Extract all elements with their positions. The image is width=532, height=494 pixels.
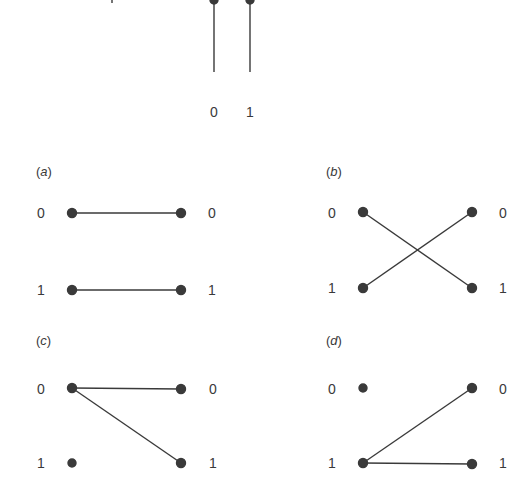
panel-a-letter: a (40, 164, 47, 179)
right-node-0 (177, 209, 186, 218)
right-node-0 (468, 384, 477, 393)
panel-a-right-label-1: 1 (208, 283, 216, 297)
panel-a-graph (68, 209, 186, 295)
panel-c-left-label-0: 0 (37, 382, 45, 396)
panel-c-label: (c) (36, 333, 51, 348)
panel-d-left-label-1: 1 (328, 456, 336, 470)
panel-d-left-label-0: 0 (328, 382, 336, 396)
left-node-0 (359, 384, 367, 392)
panel-c-right-label-1: 1 (209, 456, 217, 470)
top-wires (112, 0, 254, 72)
left-node-0 (68, 209, 77, 218)
panel-a-left-label-1: 1 (37, 283, 45, 297)
panel-d-graph (359, 384, 477, 469)
panel-b-left-label-0: 0 (328, 206, 336, 220)
left-node-1 (68, 286, 77, 295)
edge-1-1 (363, 463, 472, 464)
diagram-canvas (0, 0, 532, 494)
edge-0-0 (72, 388, 181, 389)
wire-0-label: 0 (210, 105, 218, 119)
panel-a-label: (a) (36, 164, 52, 179)
left-node-1 (68, 459, 76, 467)
right-node-1 (468, 284, 477, 293)
panel-b-letter: b (330, 164, 337, 179)
panel-d-letter: d (330, 333, 337, 348)
panel-d-right-label-1: 1 (499, 456, 507, 470)
panel-c-graph (68, 384, 186, 468)
left-node-0 (68, 384, 77, 393)
wire-1-dot (246, 0, 254, 4)
right-node-1 (177, 459, 186, 468)
left-node-1 (359, 459, 368, 468)
panel-a-left-label-0: 0 (37, 206, 45, 220)
panel-d-right-label-0: 0 (499, 382, 507, 396)
right-node-1 (177, 286, 186, 295)
panel-c-left-label-1: 1 (37, 456, 45, 470)
panel-b-right-label-1: 1 (499, 281, 507, 295)
panel-b-right-label-0: 0 (499, 206, 507, 220)
panel-b-label: (b) (326, 164, 342, 179)
wire-0-dot (210, 0, 218, 4)
edge-0-1 (72, 388, 181, 463)
panel-c-letter: c (40, 333, 47, 348)
wire-1-label: 1 (246, 105, 254, 119)
panel-b-left-label-1: 1 (328, 281, 336, 295)
right-node-1 (468, 460, 477, 469)
panel-d-label: (d) (326, 333, 342, 348)
panel-b-graph (359, 208, 477, 293)
panel-c-right-label-0: 0 (209, 382, 217, 396)
right-node-0 (468, 208, 477, 217)
panel-a-right-label-0: 0 (208, 206, 216, 220)
left-node-1 (359, 284, 368, 293)
edge-1-0 (363, 388, 472, 463)
left-node-0 (359, 208, 368, 217)
right-node-0 (177, 385, 186, 394)
